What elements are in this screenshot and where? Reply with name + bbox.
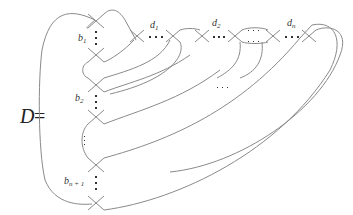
strand-b2-right	[104, 40, 170, 78]
strand-b1-loop	[87, 20, 95, 28]
strand-b1-to-b2	[83, 62, 88, 78]
lower-middle-dots	[217, 87, 228, 88]
strand-d2-bottom-arc	[242, 42, 268, 44]
strand-d1-d2-link	[180, 29, 200, 31]
strand-b1-to-d1	[104, 10, 136, 40]
strand-b1-bottom-right	[104, 40, 134, 62]
label-d1: d1	[150, 19, 159, 32]
strand-d2-tail-a	[217, 42, 240, 78]
strand-bn1-bottom-right	[104, 24, 337, 210]
label-d2: d2	[212, 17, 221, 30]
strand-bn1-right	[104, 38, 300, 158]
strand-d2-tail-b	[240, 42, 262, 78]
middle-vertical-dots	[84, 136, 85, 145]
d2-horizontal-dots	[213, 36, 225, 38]
label-dn: dn	[287, 17, 296, 30]
between-top-dots	[248, 30, 259, 31]
b1-vertical-dots	[95, 31, 97, 45]
strand-dn-outer-arc	[170, 28, 343, 172]
label-b1: b1	[78, 32, 87, 45]
diagram-symbol-d: D	[19, 105, 35, 127]
strand-d2-top-arc	[242, 28, 268, 30]
between-bottom-dots	[248, 41, 259, 42]
b2-vertical-dots	[95, 95, 97, 109]
knot-diagram: D =	[0, 0, 353, 215]
dn-horizontal-dots	[285, 36, 299, 38]
label-b2: b2	[75, 92, 84, 105]
bn1-vertical-dots	[95, 176, 97, 190]
d1-horizontal-dots	[149, 36, 163, 38]
label-bn1: bn + 1	[64, 175, 84, 188]
strand-b2-bottom-right	[104, 70, 220, 124]
